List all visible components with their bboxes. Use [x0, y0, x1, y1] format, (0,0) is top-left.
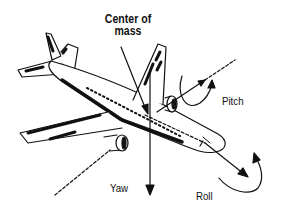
near-wing — [20, 112, 122, 143]
center-of-mass-label-line2: mass — [93, 25, 163, 37]
pitch-rotation-arrow — [180, 76, 215, 105]
fuselage — [49, 61, 225, 153]
roll-label: Roll — [196, 190, 213, 202]
center-of-mass-label: Center of mass — [93, 13, 163, 37]
near-engine — [104, 135, 128, 151]
pitch-label: Pitch — [222, 95, 244, 107]
yaw-label: Yaw — [110, 182, 128, 194]
